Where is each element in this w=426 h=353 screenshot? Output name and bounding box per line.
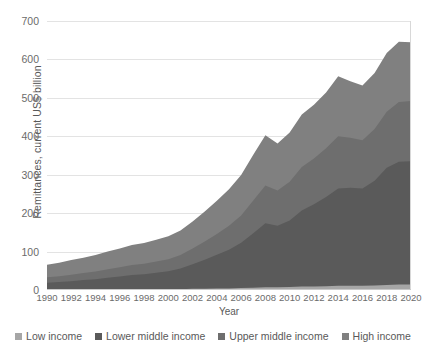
legend-swatch-icon	[95, 333, 102, 340]
x-axis-tick-label: 1996	[109, 292, 130, 303]
y-axis-tick-label: 500	[0, 92, 43, 104]
x-axis-line	[47, 289, 411, 290]
x-axis-tick-label: 2004	[206, 292, 227, 303]
x-axis-tick-label: 2016	[352, 292, 373, 303]
x-axis-tick-label: 2008	[255, 292, 276, 303]
legend-item-label: High income	[353, 330, 411, 342]
chart-legend: Low incomeLower middle incomeUpper middl…	[0, 330, 426, 342]
x-axis-tick-label: 1998	[133, 292, 154, 303]
y-axis-tick-labels: 0100200300400500600700	[0, 21, 43, 290]
plot-right-edge	[410, 21, 411, 290]
x-axis-tick-label: 2014	[328, 292, 349, 303]
legend-item[interactable]: Upper middle income	[218, 330, 328, 342]
legend-item-label: Upper middle income	[229, 330, 328, 342]
x-axis-tick-label: 2010	[279, 292, 300, 303]
y-axis-tick-label: 100	[0, 246, 43, 258]
y-axis-tick-label: 700	[0, 15, 43, 27]
x-axis-tick-label: 1990	[36, 292, 57, 303]
x-axis-tick-labels: 1990199219941996199820002002200420062008…	[47, 292, 411, 306]
legend-item[interactable]: Lower middle income	[95, 330, 205, 342]
legend-swatch-icon	[15, 333, 22, 340]
x-axis-title: Year	[47, 306, 411, 317]
x-axis-tick-label: 2012	[303, 292, 324, 303]
y-axis-tick-label: 400	[0, 130, 43, 142]
legend-item[interactable]: High income	[342, 330, 411, 342]
x-axis-tick-label: 2000	[158, 292, 179, 303]
x-axis-tick-label: 1992	[61, 292, 82, 303]
y-axis-tick-label: 600	[0, 53, 43, 65]
y-axis-tick-label: 300	[0, 169, 43, 181]
legend-swatch-icon	[342, 333, 349, 340]
legend-item[interactable]: Low income	[15, 330, 82, 342]
legend-item-label: Lower middle income	[106, 330, 205, 342]
x-axis-tick-label: 1994	[85, 292, 106, 303]
plot-area	[47, 21, 411, 290]
x-axis-tick-label: 2006	[231, 292, 252, 303]
legend-swatch-icon	[218, 333, 225, 340]
area-series-group	[47, 21, 411, 290]
x-axis-tick-label: 2018	[376, 292, 397, 303]
legend-item-label: Low income	[26, 330, 82, 342]
x-axis-tick-label: 2002	[182, 292, 203, 303]
x-axis-tick-label: 2020	[400, 292, 421, 303]
y-axis-tick-label: 200	[0, 207, 43, 219]
stacked-area-chart: Remittances, current US$ billion 0100200…	[0, 0, 426, 353]
